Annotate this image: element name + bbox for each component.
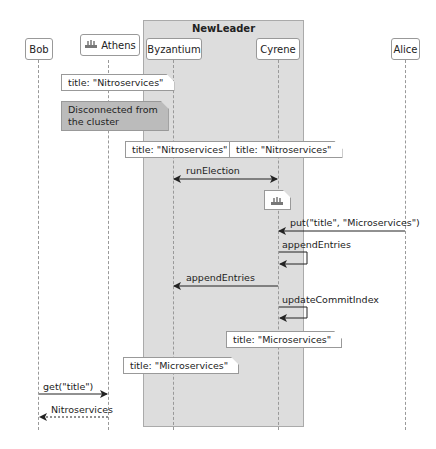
message-get-title: get("title")	[43, 381, 93, 392]
message-put-title: put("title", "Microservices")	[290, 217, 420, 228]
message-append-entries: appendEntries	[186, 272, 255, 283]
message-append-entries-self: appendEntries	[282, 239, 351, 250]
message-run-election: runElection	[186, 165, 240, 176]
message-update-commit-index: updateCommitIndex	[282, 294, 379, 305]
message-nitroservices-return: Nitroservices	[51, 404, 113, 415]
